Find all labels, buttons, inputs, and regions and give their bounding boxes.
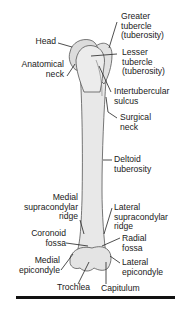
label-line: Trochlea	[57, 283, 90, 293]
label-line: (tuberosity)	[121, 31, 164, 41]
label-line: epicondyle	[19, 266, 60, 276]
label-line: fossa	[122, 244, 146, 254]
humerus-diagram: Greater tubercle (tuberosity) Head Lesse…	[0, 0, 184, 312]
label-line: (tuberosity)	[122, 67, 165, 77]
label-medial-epicondyle: Medial epicondyle	[19, 256, 60, 275]
label-line: Head	[35, 37, 56, 47]
label-line: ridge	[114, 222, 168, 232]
label-coronoid-fossa: Coronoid fossa	[31, 229, 66, 248]
label-line: Capitulum	[101, 284, 140, 294]
label-line: fossa	[31, 239, 66, 249]
label-intertubercular-sulcus: Intertubercular sulcus	[114, 87, 169, 106]
label-deltoid-tuberosity: Deltoid tuberosity	[114, 155, 151, 174]
label-line: ridge	[24, 212, 78, 222]
label-lateral-epicondyle: Lateral epicondyle	[122, 258, 163, 277]
label-anatomical-neck: Anatomical neck	[21, 60, 64, 79]
divider-rule	[16, 296, 175, 299]
label-radial-fossa: Radial fossa	[122, 234, 146, 253]
label-trochlea: Trochlea	[57, 283, 90, 293]
label-line: epicondyle	[122, 268, 163, 278]
label-line: sulcus	[114, 97, 169, 107]
label-greater-tubercle: Greater tubercle (tuberosity)	[121, 12, 164, 41]
label-line: tuberosity	[114, 165, 151, 175]
label-medial-supracondylar-ridge: Medial supracondylar ridge	[24, 193, 78, 222]
label-line: neck	[21, 70, 64, 80]
label-capitulum: Capitulum	[101, 284, 140, 294]
label-line: neck	[120, 123, 151, 133]
label-head: Head	[35, 37, 56, 47]
label-lateral-supracondylar-ridge: Lateral supracondylar ridge	[114, 203, 168, 232]
label-surgical-neck: Surgical neck	[120, 113, 151, 132]
label-lesser-tubercle: Lesser tubercle (tuberosity)	[122, 48, 165, 77]
